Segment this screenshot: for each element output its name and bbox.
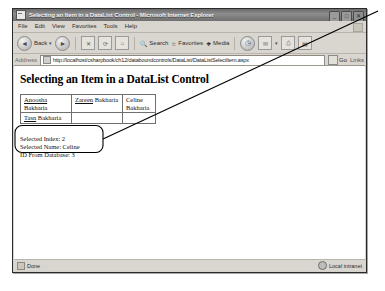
menu-item-view[interactable]: View [52,23,65,30]
star-icon: ☆ [171,40,176,47]
status-left: Done [17,262,40,270]
status-text: Done [27,263,40,269]
print-icon[interactable]: ⎙ [281,36,295,50]
menu-item-file[interactable]: File [18,23,28,30]
search-icon: 🔍 [140,40,147,47]
datalist-item-text: Bakharia [126,104,149,111]
status-right: Local intranet [318,261,362,270]
edit-page-icon[interactable]: ▤ [298,36,312,50]
selected-index-text: Selected Index: 2 [20,135,365,143]
navigation-toolbar: ◄ Back ▾ ► ✕ ⟳ ⌂ 🔍 Search ☆ Favorites ❖ … [13,33,366,54]
search-button-label: Search [149,40,168,46]
datalist-cell: Zareen Bakharia [72,95,123,113]
menu-bar: File Edit View Favorites Tools Help [13,21,366,33]
selection-info-block: Selected Index: 2 Selected Name: Celine … [20,135,365,159]
screenshot-root: Selecting an Item in a DataList Control … [0,0,385,291]
globe-icon [318,261,327,270]
page-viewport: Selecting an Item in a DataList Control … [14,65,365,259]
title-bar: Selecting an Item in a DataList Control … [13,9,366,21]
window-title: Selecting an Item in a DataList Control … [29,12,214,19]
datalist-item-link[interactable]: Anoosha [24,96,47,103]
back-arrow-icon: ◄ [17,36,32,51]
id-from-database-text: ID From Database: 3 [20,151,365,159]
links-label[interactable]: Links [350,57,364,63]
datalist-item-selected-name: Celine [126,96,143,103]
browser-window: Selecting an Item in a DataList Control … [12,8,367,273]
back-button[interactable]: ◄ Back ▾ [17,36,52,51]
address-label: Address [15,57,37,63]
page-icon [17,262,25,270]
datalist-cell-empty [123,113,156,124]
search-button[interactable]: 🔍 Search [140,40,168,47]
datalist-cell: Anoosha Bakharia [21,95,72,113]
forward-arrow-icon[interactable]: ► [55,36,70,51]
page-icon [43,56,51,64]
window-icon [16,10,26,20]
back-dropdown-caret[interactable]: ▾ [49,40,52,46]
datalist-item-text: Bakharia [24,104,47,111]
datalist-item-link[interactable]: Zareen [75,96,93,103]
stop-icon[interactable]: ✕ [81,36,95,50]
refresh-icon[interactable]: ⟳ [98,36,112,50]
home-icon[interactable]: ⌂ [115,36,129,50]
datalist-item-link[interactable]: Tasn [24,114,36,121]
datalist-item-text: Bakharia [36,114,61,121]
media-icon: ❖ [206,40,211,47]
mail-icon[interactable]: ✉ [258,36,272,50]
go-button-label: Go [339,57,347,63]
favorites-button-label: Favorites [178,40,203,46]
datalist-table: Anoosha Bakharia Zareen Bakharia Celine … [20,94,156,124]
table-row: Tasn Bakharia [21,113,156,124]
security-zone-text: Local intranet [329,263,362,269]
minimize-button[interactable]: _ [329,11,340,22]
menu-item-edit[interactable]: Edit [35,23,45,30]
favorites-button[interactable]: ☆ Favorites [171,40,203,47]
table-row: Anoosha Bakharia Zareen Bakharia Celine … [21,95,156,113]
status-bar: Done Local intranet [14,259,365,271]
toolbar-separator [75,37,76,50]
mail-dropdown-caret[interactable]: ▾ [275,40,278,46]
address-url-text: http://localhost/csharpbook/ch12/databou… [53,57,249,63]
datalist-cell: Tasn Bakharia [21,113,72,124]
media-button-label: Media [213,40,229,46]
page-title: Selecting an Item in a DataList Control [20,73,365,86]
history-clock-icon[interactable]: ◷ [240,36,255,51]
branding-logo [353,23,363,32]
toolbar-separator [134,37,135,50]
window-controls: _ □ ✕ [329,11,364,22]
back-button-label: Back [34,40,47,46]
maximize-button[interactable]: □ [341,11,352,22]
media-button[interactable]: ❖ Media [206,40,229,47]
go-arrow-icon [328,55,338,65]
address-input[interactable]: http://localhost/csharpbook/ch12/databou… [40,55,325,66]
datalist-cell-empty [72,113,123,124]
go-button[interactable]: Go [328,55,347,65]
selected-name-text: Selected Name: Celine [20,143,365,151]
close-button[interactable]: ✕ [353,11,364,22]
menu-item-help[interactable]: Help [125,23,137,30]
datalist-item-text: Bakharia [93,96,118,103]
menu-item-tools[interactable]: Tools [104,23,118,30]
menu-item-favorites[interactable]: Favorites [72,23,97,30]
datalist-cell-selected: Celine Bakharia [123,95,156,113]
toolbar-separator [234,37,235,50]
